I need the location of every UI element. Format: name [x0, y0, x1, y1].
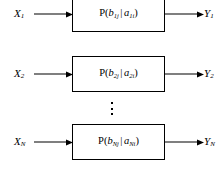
- output-label-1: Y1: [204, 8, 214, 21]
- output-label-2: Y2: [204, 68, 214, 81]
- vertical-ellipsis-icon: [0, 102, 224, 115]
- output-label-n: YN: [204, 136, 215, 149]
- diagram-canvas: X1 P(b1j|a1i) Y1 X2 P(b2j|a2i) Y2 XN P(b…: [0, 0, 224, 172]
- box-prefix-1: P(: [99, 7, 108, 18]
- box-suffix-n: ): [135, 135, 139, 146]
- output-arrow-n: [165, 142, 197, 143]
- channel-box-1: P(b1j|a1i): [72, 0, 165, 32]
- channel-box-2: P(b2j|a2i): [72, 56, 165, 92]
- input-label-1: X1: [14, 8, 24, 21]
- box-suffix-1: ): [134, 7, 138, 18]
- channel-box-label-1: P(b1j|a1i): [99, 8, 138, 19]
- box-suffix-2: ): [134, 67, 138, 78]
- input-label-2: X2: [14, 68, 24, 81]
- output-arrow-2: [165, 74, 197, 75]
- input-arrow-2: [34, 74, 66, 75]
- input-arrow-1: [34, 14, 66, 15]
- input-label-n: XN: [14, 136, 25, 149]
- output-arrow-1: [165, 14, 197, 15]
- channel-box-n: P(bNj|aNi): [72, 124, 165, 160]
- input-arrow-n: [34, 142, 66, 143]
- box-b-subscript-n: Nj: [113, 140, 119, 147]
- channel-row-n: XN P(bNj|aNi) YN: [0, 124, 224, 160]
- channel-box-label-2: P(b2j|a2i): [99, 68, 138, 79]
- box-prefix-2: P(: [99, 67, 108, 78]
- channel-box-label-n: P(bNj|aNi): [98, 136, 139, 147]
- channel-row-2: X2 P(b2j|a2i) Y2: [0, 56, 224, 92]
- channel-row-1: X1 P(b1j|a1i) Y1: [0, 0, 224, 32]
